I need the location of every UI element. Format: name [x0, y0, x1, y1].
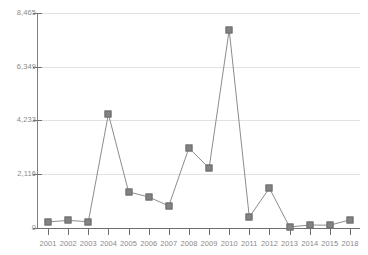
data-point — [105, 110, 112, 117]
series-line — [0, 0, 368, 255]
line-chart: 02,1164,2336,3498,465 200120022003200420… — [0, 0, 368, 255]
data-point — [165, 202, 172, 209]
data-point — [286, 223, 293, 230]
data-point — [306, 221, 313, 228]
data-point — [145, 194, 152, 201]
data-point — [65, 217, 72, 224]
data-point — [266, 185, 273, 192]
data-point — [125, 188, 132, 195]
data-point — [346, 216, 353, 223]
data-point — [45, 218, 52, 225]
data-point — [185, 144, 192, 151]
data-point — [206, 165, 213, 172]
data-point — [326, 222, 333, 229]
data-point — [85, 218, 92, 225]
data-point — [246, 214, 253, 221]
data-point — [226, 26, 233, 33]
